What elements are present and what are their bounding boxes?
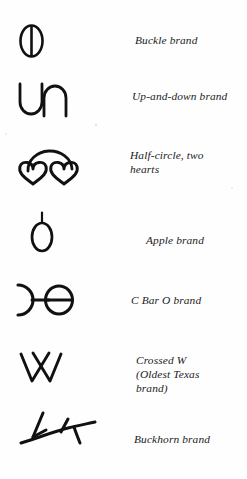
brand-caption: Half-circle, two hearts (130, 147, 247, 176)
scan-speck (95, 124, 97, 126)
brands-figure: Buckle brand Up-and-down brand Half-circ… (0, 0, 247, 479)
brand-caption: C Bar O brand (131, 280, 247, 307)
brand-caption: Apple brand (146, 210, 247, 247)
brand-row: Up-and-down brand (0, 80, 247, 120)
brand-symbol-cell (0, 350, 136, 386)
brand-row: Apple brand (0, 210, 247, 254)
brand-row: Half-circle, two hearts (0, 147, 247, 189)
brand-symbol-cell (0, 80, 132, 120)
brand-symbol-cell (0, 22, 135, 60)
brand-caption: Up-and-down brand (132, 80, 247, 103)
half-circle-two-hearts-brand-icon (12, 147, 90, 189)
brand-row: C Bar O brand (0, 280, 247, 320)
up-and-down-brand-icon (14, 80, 72, 120)
buckhorn-brand-icon (16, 405, 104, 453)
brand-caption: Buckhorn brand (134, 405, 247, 446)
brand-symbol-cell (0, 280, 131, 320)
crossed-w-brand-icon (18, 350, 66, 386)
brand-row: Crossed W (Oldest Texas brand) (0, 350, 247, 395)
brand-symbol-cell (0, 405, 134, 453)
buckle-brand-icon (17, 22, 51, 60)
brand-caption: Crossed W (Oldest Texas brand) (136, 350, 247, 395)
scan-speck (5, 133, 7, 135)
brand-row: Buckle brand (0, 22, 247, 60)
brand-symbol-cell (0, 147, 130, 189)
apple-brand-icon (28, 210, 58, 254)
c-bar-o-brand-icon (13, 280, 79, 320)
brand-row: Buckhorn brand (0, 405, 247, 453)
brand-caption: Buckle brand (135, 22, 247, 47)
brand-symbol-cell (0, 210, 146, 254)
